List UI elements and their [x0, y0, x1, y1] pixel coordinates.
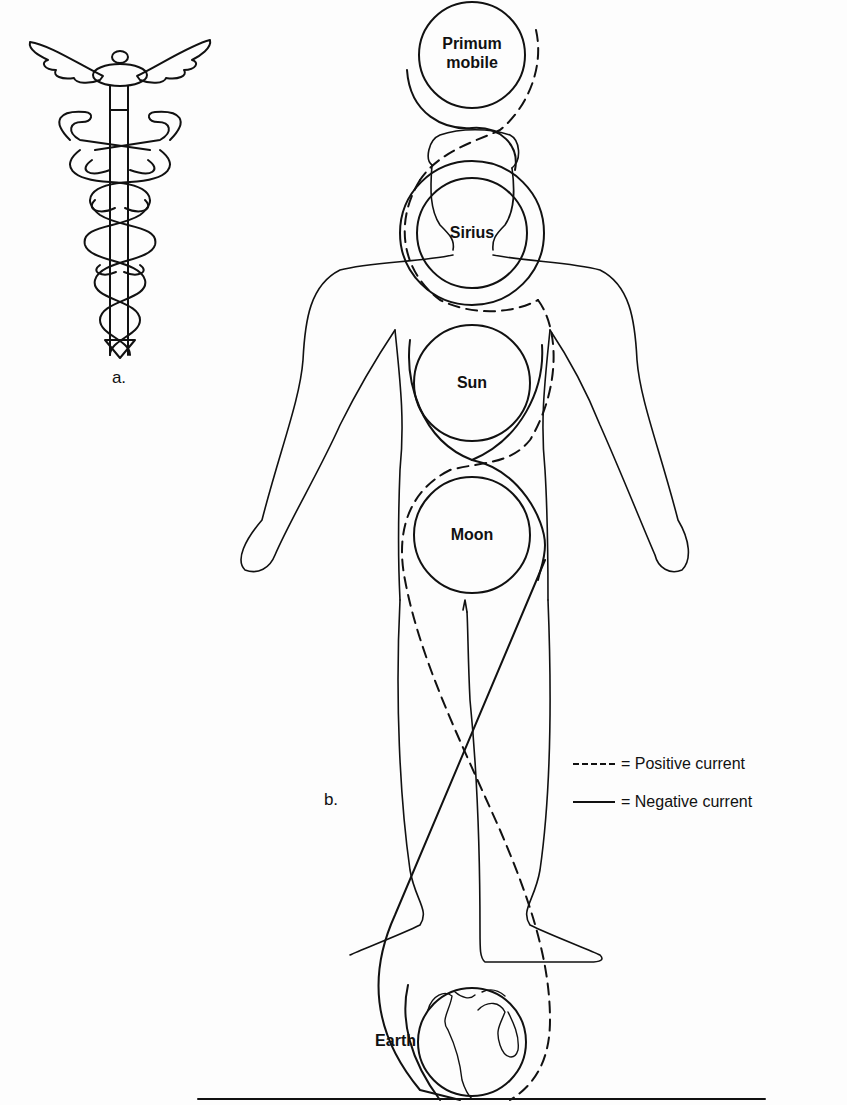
legend-positive: = Positive current — [573, 755, 745, 773]
label-primum-line1: Primum — [427, 34, 517, 53]
legend-positive-text: = Positive current — [621, 755, 745, 773]
caduceus-icon — [30, 40, 210, 358]
label-primum-line2: mobile — [427, 53, 517, 72]
label-sirius: Sirius — [432, 223, 512, 242]
label-sun: Sun — [432, 373, 512, 392]
label-primum-mobile: Primum mobile — [427, 34, 517, 72]
legend-negative-text: = Negative current — [621, 793, 752, 811]
solid-line-icon — [573, 801, 615, 803]
legend-negative: = Negative current — [573, 793, 752, 811]
panel-a-label: a. — [104, 368, 134, 387]
sphere-earth — [418, 988, 526, 1096]
label-earth: Earth — [356, 1031, 416, 1050]
human-outline — [241, 130, 688, 962]
label-moon: Moon — [432, 525, 512, 544]
panel-b-label: b. — [316, 790, 346, 809]
dashed-line-icon — [573, 763, 615, 765]
earth-continents — [428, 990, 518, 1099]
figure-canvas: Primum mobile Sirius Sun Moon Earth a. b… — [0, 0, 847, 1105]
diagram-drawing — [0, 0, 847, 1105]
